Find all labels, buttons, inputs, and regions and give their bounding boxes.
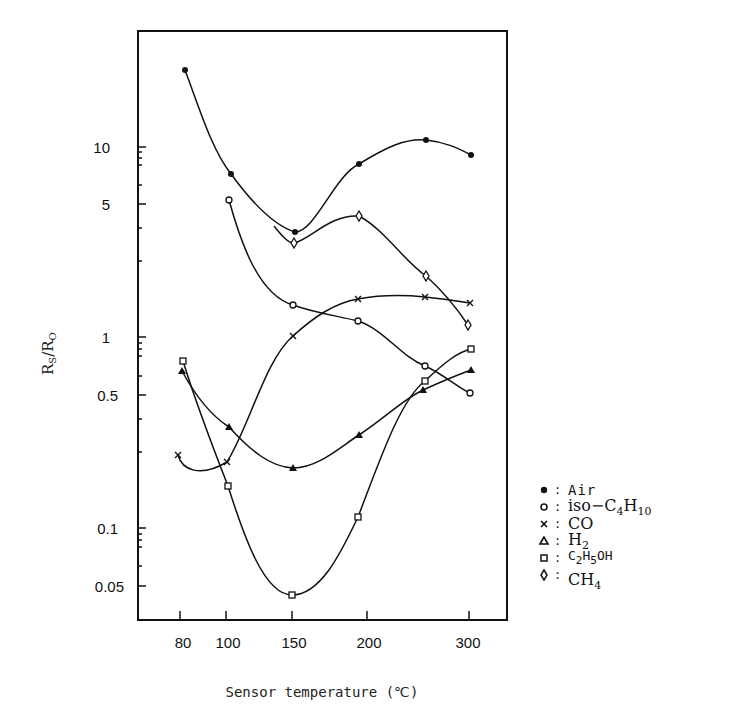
plot-frame [138,31,507,620]
y-axis-ticks [138,147,146,586]
x-tick-150: 150 [281,634,306,651]
legend-item-ch4: : CH4 [538,566,718,583]
x-tick-100: 100 [215,634,240,651]
chart-canvas: 10 5 1 0.5 0.1 0.05 80 100 150 200 300 S… [0,0,739,723]
y-tick-0.1: 0.1 [97,520,118,537]
x-tick-200: 200 [356,634,381,651]
open-circle-icon [538,500,554,514]
x-tick-labels: 80 100 150 200 300 [175,634,481,651]
legend-item-h2: : H2 [538,532,718,549]
filled-circle-icon [538,483,554,497]
x-axis-title: Sensor temperature (℃) [225,684,418,700]
x-tick-300: 300 [455,634,480,651]
y-tick-5: 5 [102,196,110,213]
y-tick-labels: 10 5 1 0.5 0.1 0.05 [93,139,124,595]
y-tick-0.5: 0.5 [97,387,118,404]
legend-item-c2h5oh: : C2H5OH [538,549,718,566]
legend-item-iso-c4h10: : iso−C4H10 [538,498,718,515]
series-iso-c4h10-line [229,200,470,393]
series-air-line [185,70,471,232]
x-mark-icon [538,517,554,531]
y-tick-0.05: 0.05 [95,578,124,595]
y-tick-10: 10 [93,139,110,156]
x-axis-ticks [180,611,469,620]
series-h2-markers [178,366,475,471]
legend-label-ch4: CH4 [568,570,601,592]
y-axis-title: RS/RO [39,332,58,375]
triangle-icon [538,534,554,548]
series-iso-c4h10-markers [226,197,473,396]
legend: : Air : iso−C4H10 : CO : H2 : C2H5OH : C… [538,481,718,583]
x-tick-80: 80 [175,634,192,651]
diamond-icon [538,568,554,582]
y-tick-1: 1 [102,329,110,346]
series-air-markers [182,67,474,235]
series-c2h5oh-markers [180,346,474,598]
series-h2-line [182,370,471,468]
open-square-icon [538,551,554,565]
legend-label-c2h5oh: C2H5OH [568,548,613,567]
series-c2h5oh-line [183,349,471,595]
legend-item-co: : CO [538,515,718,532]
svg-text:RS/RO: RS/RO [39,332,58,375]
